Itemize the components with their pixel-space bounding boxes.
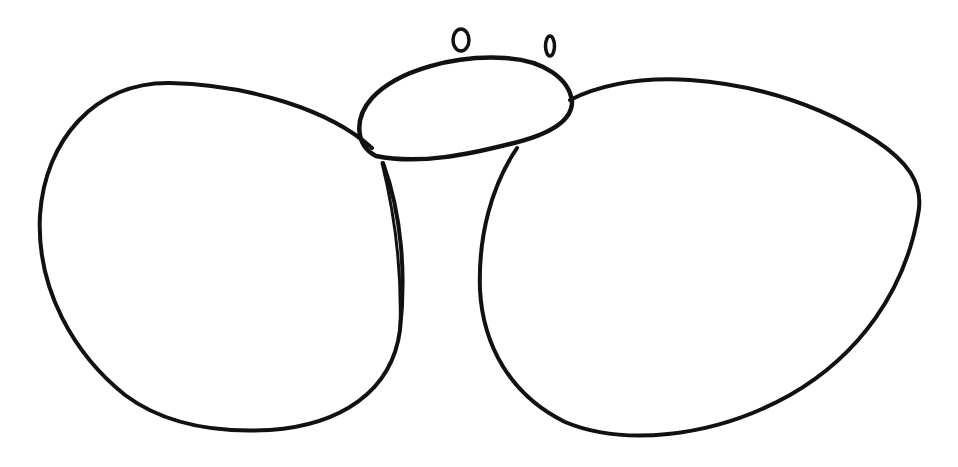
sketch-canvas bbox=[0, 0, 958, 467]
